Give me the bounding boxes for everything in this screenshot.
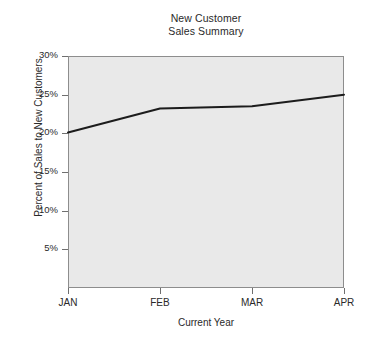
data-series-line bbox=[68, 95, 344, 133]
plot-line-layer bbox=[68, 56, 344, 288]
x-axis-tick-label: APR bbox=[314, 297, 370, 308]
y-axis-tick-label: 5% bbox=[44, 242, 58, 253]
y-axis-title: Percent of Sales to New Customers bbox=[33, 38, 44, 238]
x-axis-tick-mark bbox=[68, 288, 69, 294]
x-axis-title: Current Year bbox=[68, 317, 344, 328]
x-axis-tick-mark bbox=[344, 288, 345, 294]
chart-title-line-1: New Customer bbox=[68, 12, 344, 25]
chart-title-line-2: Sales Summary bbox=[68, 25, 344, 38]
x-axis-tick-mark bbox=[160, 288, 161, 294]
x-axis-tick-mark bbox=[252, 288, 253, 294]
chart-figure: New Customer Sales Summary 5%10%15%20%25… bbox=[0, 0, 370, 339]
chart-title: New Customer Sales Summary bbox=[68, 12, 344, 38]
x-axis-tick-label: MAR bbox=[222, 297, 282, 308]
x-axis-tick-label: JAN bbox=[38, 297, 98, 308]
x-axis-tick-label: FEB bbox=[130, 297, 190, 308]
